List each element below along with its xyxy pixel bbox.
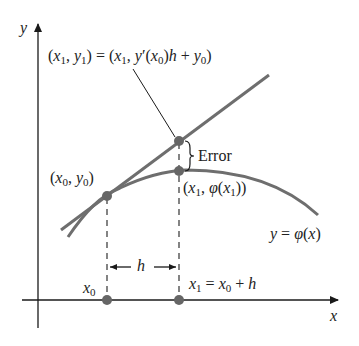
x1-label: x1 = x0 + h xyxy=(189,276,256,294)
curve-point-label: (x1, φ(x1)) xyxy=(183,180,246,198)
point-x0-y0 xyxy=(102,191,112,201)
point-x1-phi xyxy=(174,166,184,176)
euler-method-diagram: y x (x1, y1) = (x1, y′(x0)h + y0) Error … xyxy=(0,0,359,346)
curve-label: y = φ(x) xyxy=(270,226,321,242)
y-axis-label: y xyxy=(20,20,27,36)
error-brace xyxy=(185,141,194,171)
step-h-label: h xyxy=(137,258,145,274)
x0-label: x0 xyxy=(83,280,96,298)
point-x1-axis xyxy=(174,295,184,305)
x-axis-label: x xyxy=(330,308,337,324)
error-label: Error xyxy=(198,148,232,164)
tangent-point-label: (x1, y1) = (x1, y′(x0)h + y0) xyxy=(48,48,212,66)
start-point-label: (x0, y0) xyxy=(50,170,94,188)
leader-line xyxy=(133,69,175,137)
point-x1-y1 xyxy=(174,136,184,146)
point-x0-axis xyxy=(102,295,112,305)
